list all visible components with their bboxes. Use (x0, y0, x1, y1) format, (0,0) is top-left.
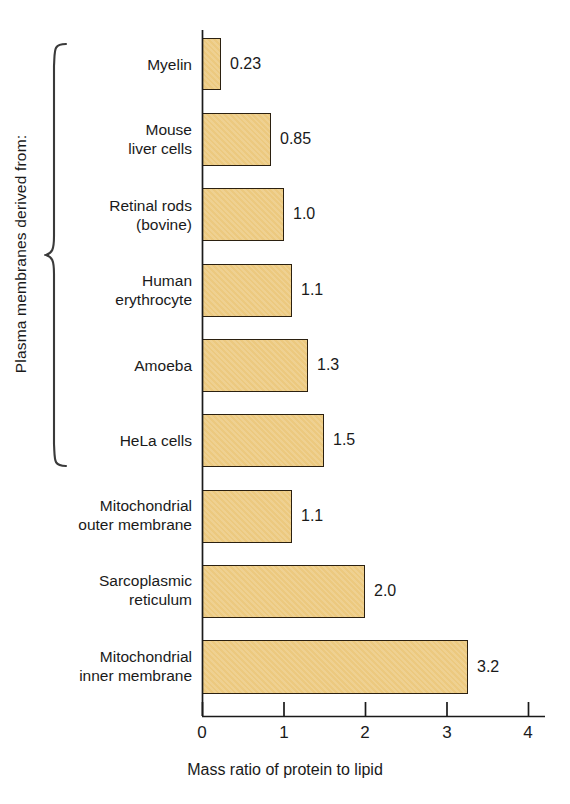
bar-value-amoeba: 1.3 (317, 356, 339, 374)
category-label-retinal-rods-bovine: Retinal rods (bovine) (32, 196, 192, 234)
bar-value-mitochondrial-outer-membrane: 1.1 (301, 507, 323, 525)
category-label-sarcoplasmic-reticulum: Sarcoplasmic reticulum (32, 571, 192, 609)
x-tick-label-3: 3 (432, 723, 462, 743)
x-tick-label-2: 2 (350, 723, 380, 743)
x-tick-label-1: 1 (269, 723, 299, 743)
category-label-mitochondrial-inner-membrane: Mitochondrial inner membrane (32, 647, 192, 685)
bar-mouse-liver-cells (202, 113, 271, 166)
x-tick-label-4: 4 (513, 723, 543, 743)
bar-value-myelin: 0.23 (230, 55, 261, 73)
category-label-myelin: Myelin (32, 55, 192, 74)
bar-mitochondrial-inner-membrane (202, 640, 468, 694)
bar-myelin (202, 38, 221, 90)
bar-sarcoplasmic-reticulum (202, 565, 365, 618)
bar-mitochondrial-outer-membrane (202, 490, 292, 543)
category-label-human-erythrocyte: Human erythrocyte (32, 271, 192, 309)
bar-value-mitochondrial-inner-membrane: 3.2 (477, 658, 499, 676)
bar-amoeba (202, 339, 308, 392)
bar-value-sarcoplasmic-reticulum: 2.0 (374, 582, 396, 600)
bar-hela-cells (202, 414, 324, 467)
x-axis-title: Mass ratio of protein to lipid (0, 761, 570, 779)
x-tick-label-0: 0 (187, 723, 217, 743)
category-label-mouse-liver-cells: Mouse liver cells (32, 120, 192, 158)
bar-value-mouse-liver-cells: 0.85 (280, 130, 311, 148)
bar-retinal-rods-bovine (202, 188, 284, 241)
category-label-hela-cells: HeLa cells (32, 431, 192, 450)
bar-value-retinal-rods-bovine: 1.0 (293, 205, 315, 223)
category-label-amoeba: Amoeba (32, 356, 192, 375)
bar-chart-figure: Plasma membranes derived from: Myelin Mo… (0, 0, 570, 804)
category-label-mitochondrial-outer-membrane: Mitochondrial outer membrane (32, 496, 192, 534)
plot-area: Myelin Mouse liver cells Retinal rods (b… (0, 0, 570, 804)
bar-value-hela-cells: 1.5 (333, 431, 355, 449)
bar-human-erythrocyte (202, 264, 292, 317)
bar-value-human-erythrocyte: 1.1 (301, 281, 323, 299)
